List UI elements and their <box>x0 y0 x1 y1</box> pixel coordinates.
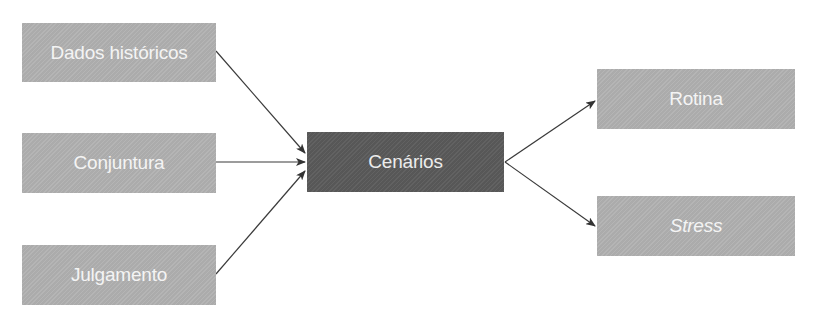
input-box-conjuntura: Conjuntura <box>22 133 216 193</box>
input-label-julgamento: Julgamento <box>71 264 167 286</box>
center-box-cenarios: Cenários <box>307 132 504 192</box>
output-box-stress: Stress <box>597 196 795 256</box>
output-box-rotina: Rotina <box>597 69 795 129</box>
arrow-julgamento-to-cenarios <box>216 171 305 274</box>
output-label-rotina: Rotina <box>669 88 723 110</box>
arrow-cenarios-to-stress <box>505 162 595 226</box>
input-box-dados-historicos: Dados históricos <box>22 23 216 82</box>
input-box-julgamento: Julgamento <box>22 245 216 305</box>
output-label-stress: Stress <box>670 215 723 237</box>
input-label-conjuntura: Conjuntura <box>74 152 165 174</box>
input-label-dados-historicos: Dados históricos <box>50 42 187 64</box>
arrow-cenarios-to-rotina <box>505 101 595 162</box>
arrow-dados-to-cenarios <box>216 51 305 153</box>
center-label-cenarios: Cenários <box>368 151 442 173</box>
